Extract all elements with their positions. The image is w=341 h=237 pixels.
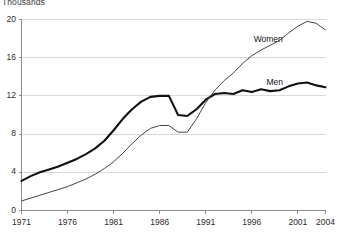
y-tick-label: 4 xyxy=(0,166,16,176)
x-tick-label: 2001 xyxy=(288,217,307,227)
y-tick-label: 8 xyxy=(0,128,16,138)
x-tick-label: 1976 xyxy=(58,217,77,227)
x-tick-label: 1981 xyxy=(104,217,123,227)
x-tick-label: 1986 xyxy=(150,217,169,227)
series-line-women xyxy=(22,21,326,201)
y-tick-label: 20 xyxy=(0,14,16,24)
series-label-men: Men xyxy=(267,77,284,87)
axis-ticks xyxy=(19,20,326,214)
x-tick-label: 1991 xyxy=(196,217,215,227)
y-tick-label: 0 xyxy=(0,205,16,215)
axis-lines xyxy=(22,20,326,211)
x-tick-label: 2004 xyxy=(316,217,335,227)
line-chart: Thousands 048121620 19711976198119861991… xyxy=(0,0,341,237)
chart-plot-area xyxy=(0,0,341,237)
x-tick-label: 1971 xyxy=(12,217,31,227)
y-tick-label: 12 xyxy=(0,90,16,100)
x-tick-label: 1996 xyxy=(242,217,261,227)
series-label-women: Women xyxy=(254,34,283,44)
y-tick-label: 16 xyxy=(0,52,16,62)
series-lines xyxy=(22,21,326,201)
series-line-men xyxy=(22,83,326,181)
